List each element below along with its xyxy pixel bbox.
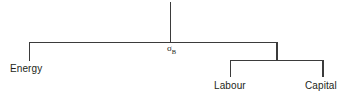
node-label-capital: Capital [305, 80, 337, 91]
nesting-tree-diagram: σB Energy Labour Capital [0, 0, 348, 98]
node-label-labour: Labour [214, 80, 246, 91]
node-label-energy: Energy [10, 63, 42, 74]
sigma-subscript: B [172, 48, 176, 55]
sigma-b-parameter-label: σB [167, 43, 176, 55]
